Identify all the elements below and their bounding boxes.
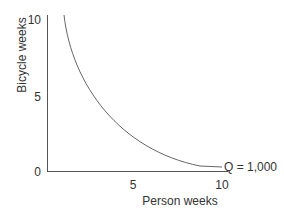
y-tick-10: 10 xyxy=(28,13,42,27)
isoquant-chart: 10 5 0 5 10 Person weeks Bicycle weeks Q… xyxy=(0,0,284,213)
isoquant-curve xyxy=(64,15,222,167)
curve-label: Q = 1,000 xyxy=(224,160,277,174)
y-tick-0: 0 xyxy=(34,165,41,179)
x-tick-10: 10 xyxy=(215,178,229,192)
x-tick-5: 5 xyxy=(130,178,137,192)
y-axis-label: Bicycle weeks xyxy=(15,17,29,92)
x-axis-label: Person weeks xyxy=(142,194,217,208)
y-tick-5: 5 xyxy=(34,90,41,104)
